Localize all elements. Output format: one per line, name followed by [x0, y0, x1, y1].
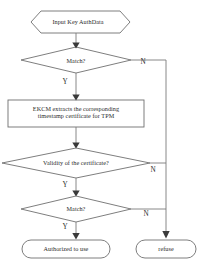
arrowhead-into-refuse: [162, 231, 169, 239]
branch-label-no-3: N: [142, 210, 150, 218]
arrowhead-match2-yes: [72, 233, 79, 240]
node-decision-match-2: [21, 196, 131, 222]
branch-label-no-1: N: [139, 58, 147, 66]
node-decision-validity: [2, 148, 150, 178]
node-terminal-refuse: [136, 240, 196, 258]
arrowhead-validity-yes: [72, 191, 79, 197]
node-start-hexagon: [31, 11, 130, 33]
flowchart-svg: [0, 0, 209, 266]
branch-label-yes-3: Y: [61, 223, 69, 231]
node-terminal-authorized: [22, 240, 110, 258]
branch-label-no-2: N: [149, 166, 157, 174]
branch-label-yes-2: Y: [61, 181, 69, 189]
node-process-ekcm: [8, 100, 144, 127]
node-decision-match-1: [21, 47, 131, 73]
arrowhead-process-to-validity: [72, 143, 79, 149]
flowchart-canvas: Input Key AuthData Match? EKCM extracts …: [0, 0, 209, 266]
branch-label-yes-1: Y: [61, 78, 69, 86]
